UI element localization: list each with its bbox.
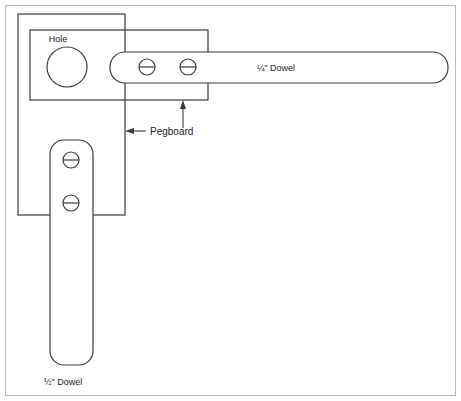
mounting-hole xyxy=(47,47,87,87)
half-inch-dowel-label: ½" Dowel xyxy=(44,377,82,387)
screw-dowel-quarter-2 xyxy=(180,59,196,75)
pegboard-label: Pegboard xyxy=(150,126,193,137)
hole-label: Hole xyxy=(49,34,68,44)
screw-dowel-quarter-1 xyxy=(139,59,155,75)
half-inch-dowel xyxy=(50,140,93,365)
screw-dowel-half-1 xyxy=(63,152,79,168)
screw-dowel-half-2 xyxy=(63,195,79,211)
pegboard-callout-leader-vertical xyxy=(180,100,186,128)
quarter-inch-dowel-label: ¼" Dowel xyxy=(257,63,295,73)
pegboard-dowel-assembly-drawing: Hole Pegboard ¼" Dowel ½" Dowel xyxy=(0,0,461,401)
pegboard-callout-leader-horizontal xyxy=(125,128,146,134)
technical-diagram-canvas: Hole Pegboard ¼" Dowel ½" Dowel xyxy=(0,0,461,401)
